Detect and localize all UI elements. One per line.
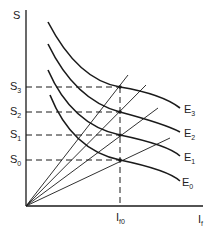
- label-e2: E2: [184, 128, 195, 139]
- curve-e2: [48, 44, 180, 132]
- label-e2-sub: 2: [191, 134, 195, 141]
- tick-s3-sub: 3: [17, 87, 21, 94]
- label-e3: E3: [184, 104, 195, 115]
- tick-if0: If0: [116, 212, 125, 223]
- tick-s0-sub: 0: [17, 160, 21, 167]
- tick-s1-sub: 1: [17, 135, 21, 142]
- x-axis-label-sub: f: [201, 220, 203, 227]
- rays: [26, 75, 170, 206]
- tick-s0: S0: [10, 154, 21, 165]
- label-e1: E1: [184, 152, 195, 163]
- label-e0: E0: [182, 177, 193, 188]
- label-e0-sub: 0: [189, 183, 193, 190]
- y-axis-label: S: [13, 10, 20, 21]
- label-e3-sub: 3: [191, 110, 195, 117]
- diagram-canvas: [0, 0, 217, 231]
- e-curves: [48, 22, 180, 181]
- tick-if0-sub: f0: [119, 218, 125, 225]
- curve-e3: [48, 22, 180, 108]
- x-axis-label: If: [198, 214, 203, 225]
- curve-e0: [50, 95, 180, 181]
- tick-s3: S3: [10, 81, 21, 92]
- tick-s1: S1: [10, 129, 21, 140]
- label-e1-sub: 1: [191, 158, 195, 165]
- tick-s2-sub: 2: [17, 112, 21, 119]
- tick-s2: S2: [10, 106, 21, 117]
